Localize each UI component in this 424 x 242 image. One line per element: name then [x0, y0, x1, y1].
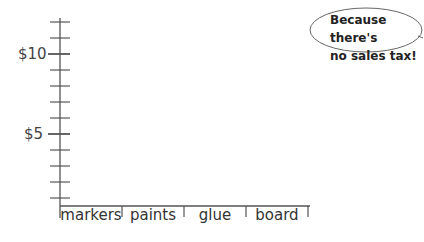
y-label-5: $5	[24, 125, 43, 143]
bubble-line-2: no sales tax!	[330, 47, 420, 65]
y-label-10: $10	[18, 45, 47, 63]
bubble-line-1: Because there's	[330, 11, 420, 47]
category-board: board	[246, 206, 308, 224]
category-glue: glue	[184, 206, 246, 224]
speech-bubble-text: Because there's no sales tax!	[330, 11, 420, 65]
category-paints: paints	[122, 206, 184, 224]
category-markers: markers	[60, 206, 122, 224]
